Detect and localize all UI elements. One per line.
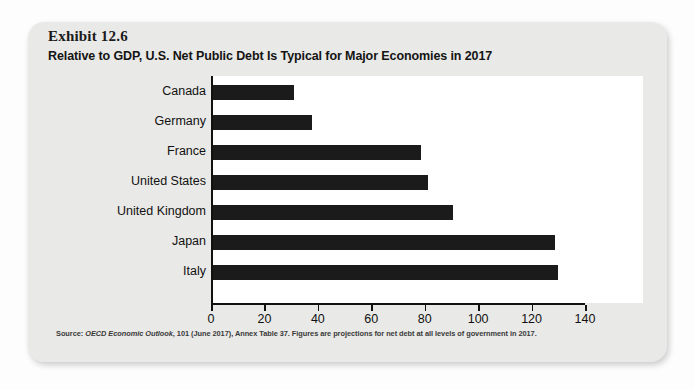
category-label: France [167, 144, 206, 158]
bar [213, 235, 555, 250]
category-label: Canada [162, 84, 206, 98]
source-note: Source: OECD Economic Outlook, 101 (June… [56, 329, 646, 338]
x-axis-tick [211, 305, 213, 311]
x-axis-tick [318, 305, 320, 311]
category-label: United Kingdom [117, 204, 206, 218]
x-axis-tick [478, 305, 480, 311]
source-prefix: Source: [56, 329, 83, 338]
bar-row: Germany [83, 108, 643, 138]
bar [213, 175, 428, 190]
exhibit-number: Exhibit 12.6 [48, 28, 128, 45]
x-axis-tick-label: 60 [364, 312, 378, 326]
bar-row: France [83, 138, 643, 168]
bar-row: United States [83, 168, 643, 198]
exhibit-title: Relative to GDP, U.S. Net Public Debt Is… [48, 49, 492, 63]
bar [213, 265, 558, 280]
x-axis-tick [371, 305, 373, 311]
category-axis-line [211, 303, 585, 305]
x-axis-tick-label: 100 [468, 312, 489, 326]
bar-row: United Kingdom [83, 198, 643, 228]
bar-row: Japan [83, 228, 643, 258]
source-rest: , 101 (June 2017), Annex Table 37. Figur… [173, 329, 537, 338]
bar [213, 85, 294, 100]
x-axis-tick-label: 120 [521, 312, 542, 326]
x-axis-tick [532, 305, 534, 311]
bar-chart: CanadaGermanyFranceUnited StatesUnited K… [83, 76, 643, 308]
category-label: Japan [172, 234, 206, 248]
bar [213, 115, 312, 130]
x-axis-tick-label: 80 [418, 312, 432, 326]
bar [213, 145, 421, 160]
x-axis-tick [425, 305, 427, 311]
x-axis-tick [585, 305, 587, 311]
bar [213, 205, 453, 220]
bar-row: Italy [83, 258, 643, 288]
category-label: United States [131, 174, 206, 188]
bar-row: Canada [83, 78, 643, 108]
page-background: Exhibit 12.6 Relative to GDP, U.S. Net P… [0, 0, 694, 389]
x-axis-tick-label: 0 [208, 312, 215, 326]
category-label: Italy [183, 264, 206, 278]
x-axis-tick-label: 20 [257, 312, 271, 326]
x-axis-tick-label: 140 [575, 312, 596, 326]
source-publication: OECD Economic Outlook [85, 329, 173, 338]
category-label: Germany [155, 114, 206, 128]
exhibit-card: Exhibit 12.6 Relative to GDP, U.S. Net P… [28, 22, 667, 362]
x-axis-tick [264, 305, 266, 311]
x-axis-tick-label: 40 [311, 312, 325, 326]
